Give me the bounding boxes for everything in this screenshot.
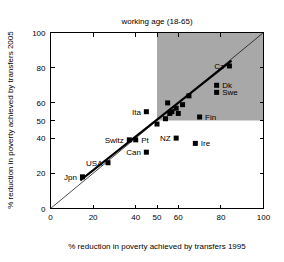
x-tick-label: 100	[257, 213, 271, 222]
data-point-pt	[133, 137, 138, 142]
y-tick-label: 0	[41, 205, 46, 214]
point-label-cz: Cz	[214, 62, 224, 71]
data-point	[176, 111, 181, 116]
x-tick-label: 60	[174, 213, 183, 222]
data-point	[169, 109, 174, 114]
data-point	[186, 93, 191, 98]
chart-canvas: 0204050608010002040506080100 JpnUSASwitz…	[0, 0, 284, 262]
y-axis-title: % reduction in poverty achieved by trans…	[6, 31, 15, 209]
point-label-nz: NZ	[160, 134, 171, 143]
point-label-can: Can	[126, 148, 141, 157]
y-tick-label: 40	[37, 134, 46, 143]
point-label-usa: USA	[86, 159, 103, 168]
x-tick-label: 80	[216, 213, 225, 222]
data-point	[165, 100, 170, 105]
point-label-jpn: Jpn	[64, 173, 77, 182]
data-point-switz	[127, 137, 132, 142]
point-label-ita: Ita	[132, 108, 141, 117]
x-tick-label: 50	[153, 213, 162, 222]
y-tick-label: 60	[37, 99, 46, 108]
data-point	[155, 122, 160, 127]
y-tick-label: 20	[37, 169, 46, 178]
y-tick-label: 80	[37, 64, 46, 73]
point-label-pt: Pt	[141, 136, 149, 145]
data-point-fin	[197, 114, 202, 119]
y-tick-label: 100	[32, 29, 46, 38]
data-point-usa	[106, 160, 111, 165]
point-label-ire: Ire	[201, 139, 211, 148]
data-point-ire	[193, 141, 198, 146]
point-label-switz: Switz	[105, 136, 124, 145]
point-label-fin: Fin	[205, 113, 216, 122]
data-point-swe	[214, 90, 219, 95]
x-tick-label: 20	[89, 213, 98, 222]
data-point	[180, 102, 185, 107]
chart-title: working age (18-65)	[120, 17, 192, 26]
y-tick-label: 50	[37, 117, 46, 126]
data-point	[163, 116, 168, 121]
data-point-dk	[214, 83, 219, 88]
data-point-cz	[227, 63, 232, 68]
data-point	[174, 106, 179, 111]
data-point-can	[144, 150, 149, 155]
scatter-plot-figure: 0204050608010002040506080100 JpnUSASwitz…	[0, 0, 284, 262]
x-tick-label: 0	[48, 213, 53, 222]
x-tick-label: 40	[131, 213, 140, 222]
data-point-nz	[174, 136, 179, 141]
data-point-ita	[144, 109, 149, 114]
point-label-swe: Swe	[222, 88, 238, 97]
x-axis-title: % reduction in poverty achieved by trans…	[68, 242, 246, 251]
data-point-jpn	[80, 174, 85, 179]
